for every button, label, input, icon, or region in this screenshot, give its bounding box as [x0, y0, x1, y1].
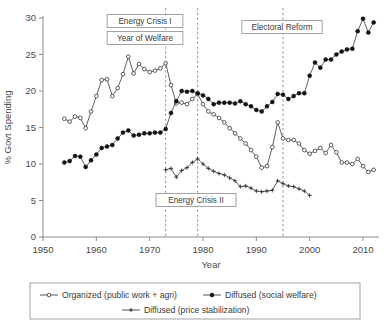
- data-point-0-53: [345, 161, 349, 165]
- y-tick-label-15: 15: [25, 122, 36, 133]
- data-point-0-43: [292, 138, 296, 142]
- data-point-0-16: [148, 70, 152, 74]
- data-point-0-49: [324, 151, 328, 155]
- data-point-0-18: [158, 67, 162, 71]
- data-point-1-27: [206, 97, 210, 101]
- data-point-0-1: [68, 120, 72, 124]
- legend-label-0: Organized (public work + agri): [62, 290, 177, 300]
- data-point-0-32: [233, 131, 237, 135]
- data-point-0-2: [73, 115, 77, 119]
- data-point-0-17: [153, 69, 157, 73]
- data-point-1-2: [73, 154, 77, 158]
- data-point-0-50: [329, 143, 333, 147]
- y-axis-title: % Govt Spending: [2, 91, 13, 165]
- data-point-1-7: [100, 146, 104, 150]
- annotation-label-1: Year of Welfare: [117, 34, 173, 43]
- data-point-0-40: [276, 121, 280, 125]
- data-point-2-18: [260, 190, 264, 194]
- x-tick-label-2010: 2010: [352, 244, 373, 255]
- data-point-0-35: [249, 148, 253, 152]
- data-point-1-38: [265, 104, 269, 108]
- data-point-0-19: [164, 61, 168, 65]
- data-point-1-9: [110, 143, 114, 147]
- x-tick-label-1970: 1970: [139, 244, 160, 255]
- data-point-2-15: [244, 184, 248, 188]
- annotation-label-0: Energy Crisis I: [118, 17, 171, 26]
- data-point-1-5: [89, 158, 93, 162]
- data-point-1-26: [201, 93, 205, 97]
- data-point-1-41: [281, 93, 285, 97]
- y-tick-label-30: 30: [25, 12, 36, 23]
- data-point-2-12: [228, 176, 232, 180]
- data-point-0-27: [206, 110, 210, 114]
- chart-figure: 0510152025301950196019701980199020002010…: [0, 0, 387, 326]
- data-point-2-20: [270, 188, 274, 192]
- data-point-1-24: [190, 89, 194, 93]
- data-point-0-55: [356, 157, 360, 161]
- data-point-2-16: [249, 186, 253, 190]
- data-point-0-11: [121, 72, 125, 76]
- data-point-1-28: [212, 102, 216, 106]
- data-point-1-16: [148, 131, 152, 135]
- series-line-0: [64, 57, 373, 172]
- data-point-0-56: [361, 164, 365, 168]
- data-point-1-42: [286, 97, 290, 101]
- y-tick-label-25: 25: [25, 49, 36, 60]
- data-point-2-25: [297, 187, 301, 191]
- data-point-1-18: [158, 131, 162, 135]
- data-point-2-24: [292, 185, 296, 189]
- data-point-0-29: [217, 116, 221, 120]
- data-point-1-8: [105, 144, 109, 148]
- data-point-1-21: [174, 99, 178, 103]
- data-point-1-14: [137, 133, 141, 137]
- data-point-0-24: [190, 97, 194, 101]
- x-tick-label-2000: 2000: [299, 244, 320, 255]
- data-point-1-36: [254, 108, 258, 112]
- data-point-0-48: [318, 146, 322, 150]
- y-tick-label-10: 10: [25, 158, 36, 169]
- data-point-0-33: [238, 137, 242, 141]
- data-point-1-0: [62, 161, 66, 165]
- data-point-1-32: [233, 101, 237, 105]
- series-line-2: [166, 159, 310, 196]
- data-point-1-6: [94, 153, 98, 157]
- data-point-1-46: [308, 74, 312, 78]
- data-point-1-4: [84, 165, 88, 169]
- data-point-2-1: [169, 166, 173, 170]
- data-point-1-23: [185, 90, 189, 94]
- data-point-1-44: [297, 91, 301, 95]
- data-point-0-51: [334, 150, 338, 154]
- data-point-1-25: [196, 91, 200, 95]
- data-point-0-57: [366, 170, 370, 174]
- data-point-1-49: [324, 58, 328, 62]
- data-point-0-31: [228, 126, 232, 130]
- data-point-1-35: [249, 104, 253, 108]
- data-point-0-8: [105, 77, 109, 81]
- data-point-0-0: [62, 117, 66, 121]
- data-point-1-45: [302, 91, 306, 95]
- data-point-0-13: [132, 72, 136, 76]
- data-point-1-53: [345, 47, 349, 51]
- data-point-0-15: [142, 67, 146, 71]
- data-point-2-19: [265, 189, 269, 193]
- data-point-1-30: [222, 101, 226, 105]
- y-tick-label-5: 5: [31, 195, 36, 206]
- data-point-1-55: [356, 29, 360, 33]
- data-point-0-36: [254, 155, 258, 159]
- data-point-0-12: [126, 55, 130, 59]
- data-point-0-34: [244, 142, 248, 146]
- data-point-0-20: [169, 83, 173, 87]
- data-point-0-4: [84, 126, 88, 130]
- y-tick-label-20: 20: [25, 85, 36, 96]
- data-point-1-20: [169, 111, 173, 115]
- x-tick-label-1960: 1960: [86, 244, 107, 255]
- data-point-0-30: [222, 121, 226, 125]
- data-point-1-50: [329, 58, 333, 62]
- data-point-1-43: [292, 94, 296, 98]
- data-point-0-44: [297, 142, 301, 146]
- data-point-1-48: [318, 66, 322, 70]
- data-point-0-42: [286, 138, 290, 142]
- data-point-1-1: [68, 159, 72, 163]
- data-point-2-23: [286, 184, 290, 188]
- data-point-0-37: [260, 166, 264, 170]
